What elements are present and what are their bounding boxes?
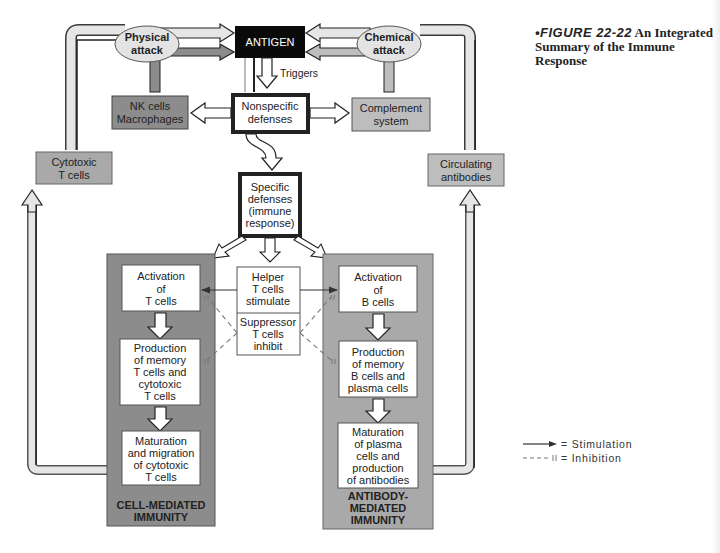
svg-text:Physical: Physical [125,31,170,43]
svg-text:defenses: defenses [248,193,293,205]
svg-text:Production: Production [352,346,405,358]
circulating-antibodies-node: Circulating antibodies [428,154,504,186]
svg-text:CELL-MEDIATED: CELL-MEDIATED [116,499,205,511]
figure-label: •FIGURE 22-22 [535,25,632,40]
svg-text:stimulate: stimulate [246,295,290,307]
svg-text:Complement: Complement [360,102,422,114]
left-bottom-pipe [22,190,120,470]
svg-text:production: production [352,462,403,474]
svg-text:T cells: T cells [145,471,177,483]
svg-text:IMMUNITY: IMMUNITY [351,514,406,526]
svg-text:Nonspecific: Nonspecific [242,100,299,112]
nonspecific-defenses-node: Nonspecific defenses [233,95,308,132]
svg-text:Maturation: Maturation [135,435,187,447]
legend-stimulation-label: = Stimulation [561,438,632,450]
svg-text:ANTIGEN: ANTIGEN [246,36,295,48]
legend: = Stimulation = Inhibition [521,437,632,465]
svg-text:NK cells: NK cells [130,100,171,112]
svg-text:T cells: T cells [58,169,90,181]
svg-text:cytotoxic: cytotoxic [139,378,182,390]
nk-cells-macrophages-node: NK cells Macrophages [112,96,188,129]
svg-text:and migration: and migration [128,447,195,459]
svg-text:antibodies: antibodies [441,171,492,183]
svg-text:Triggers: Triggers [280,67,318,79]
svg-text:Specific: Specific [251,181,290,193]
svg-text:T cells and: T cells and [134,366,187,378]
svg-text:Maturation: Maturation [352,426,404,438]
svg-text:Production: Production [134,342,187,354]
svg-text:response): response) [246,217,295,229]
svg-text:(immune: (immune [249,205,292,217]
dashed-bar-icon [521,453,561,463]
legend-inhibition: = Inhibition [521,451,632,465]
specific-defenses-node: Specific defenses (immune response) [240,174,300,236]
svg-text:of: of [156,283,166,295]
svg-text:T cells: T cells [252,328,284,340]
physical-stem [150,58,160,92]
legend-stimulation: = Stimulation [521,437,632,451]
svg-text:Activation: Activation [354,271,402,283]
svg-text:B cells: B cells [362,296,395,308]
antibody-mediated-immunity-panel: Activation of B cells Production of memo… [323,254,433,529]
svg-text:T cells: T cells [144,390,176,402]
svg-text:IMMUNITY: IMMUNITY [134,511,189,523]
svg-text:inhibit: inhibit [254,340,283,352]
svg-text:defenses: defenses [248,113,293,125]
svg-text:Activation: Activation [137,270,185,282]
solid-arrow-icon [521,439,561,449]
svg-text:Circulating: Circulating [440,158,492,170]
svg-text:of: of [373,284,383,296]
immune-response-diagram: ANTIGEN Triggers Physical attack Chemica… [0,0,720,553]
complement-system-node: Complement system [352,98,430,131]
svg-text:attack: attack [373,44,406,56]
svg-text:T cells: T cells [145,295,177,307]
svg-text:plasma cells: plasma cells [348,382,409,394]
svg-text:Cytotoxic: Cytotoxic [51,156,97,168]
svg-text:system: system [374,115,409,127]
physical-attack-node: Physical attack [115,26,179,62]
chemical-stem [384,58,394,92]
svg-text:ANTIBODY-: ANTIBODY- [348,490,409,502]
svg-text:Chemical: Chemical [365,31,414,43]
svg-text:MEDIATED: MEDIATED [350,502,407,514]
antigen-node: ANTIGEN [235,26,305,58]
arrowhead-up-icon [22,190,42,212]
svg-text:of cytotoxic: of cytotoxic [133,459,189,471]
svg-text:Helper: Helper [252,271,285,283]
svg-text:of memory: of memory [134,354,186,366]
antigen-to-nonspecific: Triggers [245,58,318,92]
specific-fan-arrows [213,236,327,262]
chemical-attack-node: Chemical attack [357,26,421,62]
arrowhead-up-icon [460,190,480,212]
svg-text:cells and: cells and [356,450,399,462]
legend-inhibition-label: = Inhibition [561,452,622,464]
svg-text:B cells and: B cells and [351,370,405,382]
svg-text:T cells: T cells [252,283,284,295]
svg-text:Macrophages: Macrophages [117,113,184,125]
helper-suppressor-node: Helper T cells stimulate Suppressor T ce… [237,267,300,355]
svg-text:of antibodies: of antibodies [347,474,410,486]
cell-mediated-immunity-panel: Activation of T cells Production of memo… [107,254,215,526]
nonspecific-to-specific-arrow [246,134,282,170]
svg-text:of plasma: of plasma [354,438,403,450]
cytotoxic-t-cells-node: Cytotoxic T cells [36,152,112,184]
svg-text:attack: attack [131,44,164,56]
svg-text:of memory: of memory [352,358,404,370]
figure-caption: •FIGURE 22-22 An Integrated Summary of t… [535,26,715,68]
right-loop-pipe [420,30,475,150]
svg-text:Suppressor: Suppressor [240,316,297,328]
